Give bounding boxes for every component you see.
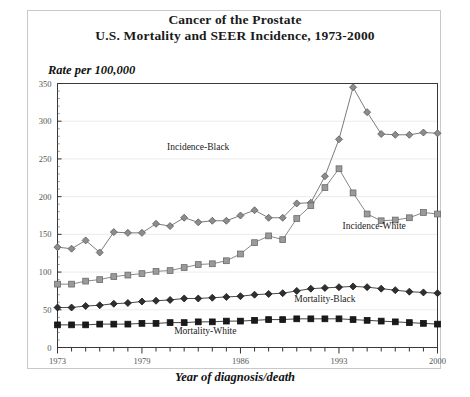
y-tick-label: 100 [39,267,52,277]
data-point [265,290,272,297]
data-point [55,281,61,287]
data-point [138,298,145,305]
data-point [336,316,342,322]
data-point [153,220,160,227]
x-tick-label: 1979 [133,356,150,366]
data-point [223,293,230,300]
data-point [181,295,188,302]
data-point [238,251,244,257]
data-point [435,321,441,327]
y-tick-label: 150 [39,229,52,239]
data-point [209,261,215,267]
data-point [97,321,103,327]
series-mortality-black: Mortality-Black [54,283,441,311]
data-point [336,166,342,172]
data-point [167,296,174,303]
data-point [195,319,201,325]
data-point [111,274,117,280]
data-point [280,237,286,243]
data-point [252,240,258,246]
data-point [83,322,89,328]
data-point [238,318,244,324]
data-point [124,299,131,306]
data-point [251,207,258,214]
data-point [308,316,314,322]
y-tick-label: 50 [43,305,52,315]
data-point [392,287,399,294]
data-point [279,290,286,297]
y-tick-label: 0 [47,343,51,353]
data-point [252,317,258,323]
data-point [97,277,103,283]
series-label: Mortality-Black [294,294,355,304]
data-point [364,211,370,217]
y-tick-label: 300 [39,116,52,126]
series-label: Mortality-White [174,326,236,336]
plot-svg: 0501001502002503003501973197919861993200… [0,0,470,397]
data-point [378,285,385,292]
data-point [308,203,314,209]
data-point [322,185,328,191]
data-point [209,319,215,325]
data-point [125,321,131,327]
data-point [167,320,173,326]
data-point [251,291,258,298]
series-label: Incidence-Black [167,142,229,152]
data-point [265,214,272,221]
x-tick-label: 1986 [232,356,249,366]
data-point [434,130,441,137]
data-point [406,320,412,326]
data-point [350,190,356,196]
data-point [223,217,230,224]
y-tick-label: 350 [39,79,52,89]
data-point [124,229,131,236]
data-point [307,285,314,292]
data-point [350,317,356,323]
data-point [266,233,272,239]
data-point [153,268,159,274]
data-point [321,173,328,180]
data-point [322,316,328,322]
x-tick-label: 1973 [49,356,66,366]
series-mortality-white: Mortality-White [55,316,441,336]
data-point [280,317,286,323]
data-point [139,320,145,326]
data-point [335,284,342,291]
data-point [406,131,413,138]
data-point [364,317,370,323]
data-point [110,300,117,307]
data-point [406,288,413,295]
data-point [54,244,61,251]
series-label: Incidence-White [343,221,406,231]
data-point [364,284,371,291]
y-tick-label: 250 [39,154,52,164]
data-point [237,212,244,219]
data-point [138,229,145,236]
plot-border [58,84,438,348]
data-point [392,131,399,138]
data-point [96,302,103,309]
plot-area: 0501001502002503003501973197919861993200… [0,0,470,397]
data-point [364,109,371,116]
series-incidence-white: Incidence-White [55,166,441,287]
data-point [266,317,272,323]
data-point [181,214,188,221]
data-point [209,294,216,301]
data-point [434,290,441,297]
data-point [153,297,160,304]
data-point [111,321,117,327]
data-point [378,318,384,324]
y-tick-label: 200 [39,192,52,202]
data-point [321,284,328,291]
data-point [167,268,173,274]
data-point [420,289,427,296]
x-tick-label: 2000 [429,356,446,366]
data-point [55,322,61,328]
data-point [125,272,131,278]
data-point [209,217,216,224]
data-point [195,295,202,302]
data-point [195,219,202,226]
data-point [335,136,342,143]
data-point [420,129,427,136]
data-point [392,319,398,325]
